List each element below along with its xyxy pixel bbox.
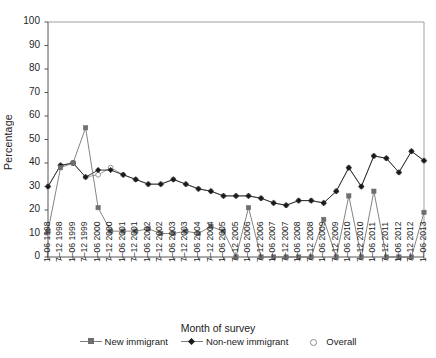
- chart-legend: New immigrant Non-new immigrant Overall: [0, 336, 436, 347]
- data-point-marker: [71, 161, 75, 165]
- data-point-marker: [96, 205, 100, 209]
- legend-entry-new-immigrant: New immigrant: [80, 336, 168, 347]
- x-tick-label: 7–12 1999: [79, 221, 89, 262]
- x-tick-label: 1–06 2003: [167, 221, 177, 262]
- x-tick-label: 1–06 2012: [393, 221, 403, 262]
- data-point-marker: [347, 194, 351, 198]
- x-tick-label: 1–06 2008: [292, 221, 302, 262]
- y-tick-0: 0: [16, 250, 40, 261]
- y-tick-40: 40: [16, 156, 40, 167]
- x-tick-label: 1–06 1998: [42, 221, 52, 262]
- data-point-marker: [58, 166, 62, 170]
- circle-marker-icon: [301, 337, 323, 346]
- x-tick-label: 7–12 2012: [405, 221, 415, 262]
- y-tick-80: 80: [16, 62, 40, 73]
- x-tick-label: 7–12 2011: [380, 222, 390, 262]
- x-tick-label: 1–06 2009: [317, 221, 327, 262]
- x-tick-label: 1–06 2013: [418, 221, 428, 262]
- x-tick-label: 7–12 1998: [54, 221, 64, 262]
- x-tick-label: 7–12 2005: [230, 221, 240, 262]
- legend-entry-overall: Overall: [301, 336, 356, 347]
- data-point-marker: [422, 210, 426, 214]
- x-tick-label: 1–06 2010: [342, 221, 352, 262]
- y-tick-20: 20: [16, 203, 40, 214]
- y-tick-100: 100: [16, 15, 40, 26]
- chart-plot-area: [0, 0, 436, 358]
- x-tick-label: 7–12 2006: [255, 221, 265, 262]
- x-tick-label: 1–06 2011: [367, 222, 377, 262]
- data-point-marker: [95, 167, 100, 172]
- x-tick-label: 1–06 2005: [217, 221, 227, 262]
- x-tick-label: 1–06 2007: [267, 221, 277, 262]
- data-point-marker: [83, 126, 87, 130]
- x-tick-label: 1–06 2002: [142, 221, 152, 262]
- legend-label-non-new-immigrant: Non-new immigrant: [206, 336, 288, 347]
- y-tick-30: 30: [16, 180, 40, 191]
- x-tick-label: 7–12 2004: [205, 221, 215, 262]
- x-tick-label: 7–12 2000: [104, 221, 114, 262]
- y-tick-50: 50: [16, 133, 40, 144]
- square-marker-icon: [80, 337, 102, 346]
- legend-label-overall: Overall: [326, 336, 356, 347]
- y-tick-70: 70: [16, 86, 40, 97]
- y-tick-10: 10: [16, 227, 40, 238]
- chart-figure: Percentage 1–06 19987–12 19981–06 19997–…: [0, 0, 436, 358]
- y-tick-90: 90: [16, 39, 40, 50]
- x-tick-label: 1–06 2000: [92, 221, 102, 262]
- y-tick-60: 60: [16, 109, 40, 120]
- x-tick-label: 1–06 2004: [192, 221, 202, 262]
- x-tick-label: 1–06 2001: [117, 221, 127, 262]
- data-point-marker: [372, 189, 376, 193]
- x-tick-label: 7–12 2007: [280, 221, 290, 262]
- x-tick-label: 1–06 1999: [67, 221, 77, 262]
- legend-entry-non-new-immigrant: Non-new immigrant: [181, 336, 288, 347]
- x-tick-label: 7–12 2002: [154, 221, 164, 262]
- legend-label-new-immigrant: New immigrant: [105, 336, 168, 347]
- x-tick-label: 7–12 2008: [305, 221, 315, 262]
- data-point-marker: [246, 205, 250, 209]
- x-axis-title: Month of survey: [0, 322, 436, 334]
- x-tick-label: 1–06 2006: [242, 221, 252, 262]
- diamond-marker-icon: [181, 337, 203, 346]
- x-tick-label: 7–12 2010: [355, 221, 365, 262]
- x-tick-label: 7–12 2001: [129, 221, 139, 262]
- x-tick-label: 7–12 2003: [179, 221, 189, 262]
- x-tick-label: 7–12 2009: [330, 221, 340, 262]
